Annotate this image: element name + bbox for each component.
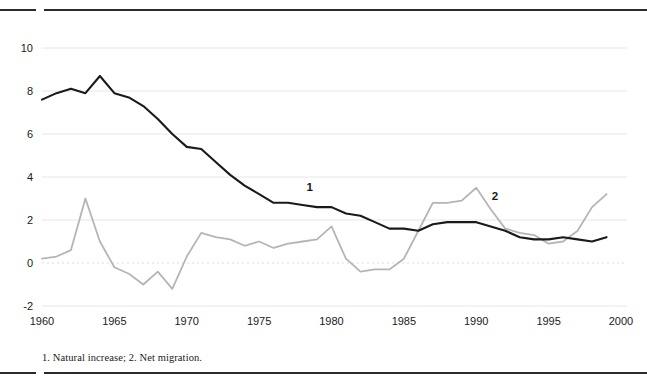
bottom-rule-left-segment [0,372,36,374]
y-gridlines [42,48,627,306]
line-chart: -202468101960196519701975198019851990199… [0,0,647,387]
x-tick-label-1965: 1965 [102,315,126,327]
y-axis-labels: -20246810 [21,42,33,312]
y-tick-label-8: 8 [27,85,33,97]
x-tick-label-1975: 1975 [247,315,271,327]
y-tick-label-6: 6 [27,128,33,140]
figure: -202468101960196519701975198019851990199… [0,0,647,387]
x-tick-label-1995: 1995 [536,315,560,327]
bottom-rule-right-segment [44,372,647,374]
x-axis-labels: 196019651970197519801985199019952000 [30,315,633,327]
chart-footnote: 1. Natural increase; 2. Net migration. [42,352,202,363]
y-tick-label-0: 0 [27,257,33,269]
y-tick-label--2: -2 [23,300,33,312]
y-tick-label-10: 10 [21,42,33,54]
series-annotations: 12 [307,181,499,202]
x-tick-label-1980: 1980 [319,315,343,327]
x-tick-label-2000: 2000 [609,315,633,327]
series-line-1 [42,76,607,242]
x-tick-label-1970: 1970 [175,315,199,327]
y-tick-label-2: 2 [27,214,33,226]
x-tick-label-1960: 1960 [30,315,54,327]
y-tick-label-4: 4 [27,171,33,183]
x-tick-label-1985: 1985 [392,315,416,327]
series-label-2: 2 [492,190,498,202]
x-tick-label-1990: 1990 [464,315,488,327]
series-label-1: 1 [307,181,314,193]
